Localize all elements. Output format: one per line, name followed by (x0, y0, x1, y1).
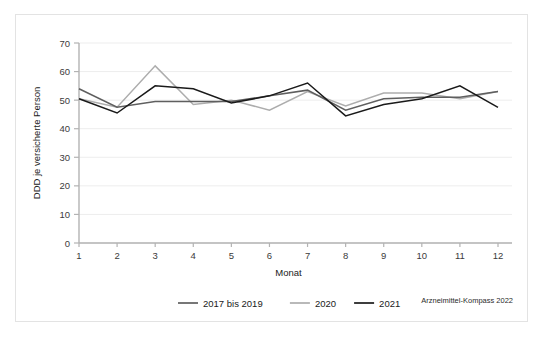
y-tick-label: 60 (59, 66, 70, 77)
y-tick-label: 40 (59, 123, 70, 134)
y-tick-label: 70 (59, 38, 70, 49)
x-tick-label: 9 (381, 250, 386, 261)
y-tick-label: 20 (59, 180, 70, 191)
x-tick-label: 2 (114, 250, 119, 261)
line-chart-svg: 010203040506070123456789101112MonatDDD j… (16, 15, 529, 323)
x-axis-title: Monat (275, 267, 302, 278)
x-tick-label: 6 (267, 250, 272, 261)
x-tick-label: 7 (305, 250, 310, 261)
x-tick-label: 8 (343, 250, 348, 261)
series-line-2017-bis-2019 (79, 89, 498, 110)
x-tick-label: 12 (493, 250, 504, 261)
chart-figure: 010203040506070123456789101112MonatDDD j… (15, 14, 528, 322)
x-tick-label: 4 (191, 250, 196, 261)
x-tick-label: 10 (417, 250, 428, 261)
x-tick-label: 3 (153, 250, 158, 261)
legend-label-2017-bis-2019: 2017 bis 2019 (203, 298, 263, 309)
x-tick-label: 5 (229, 250, 234, 261)
x-tick-label: 11 (455, 250, 465, 261)
legend-label-2021: 2021 (379, 298, 400, 309)
series-line-2021 (79, 83, 498, 116)
y-tick-label: 30 (59, 152, 70, 163)
y-tick-label: 50 (59, 95, 70, 106)
y-axis-title: DDD je versicherte Person (31, 87, 42, 199)
y-tick-label: 10 (59, 209, 70, 220)
x-tick-label: 1 (76, 250, 81, 261)
chart-plot-area: 010203040506070123456789101112MonatDDD j… (16, 15, 529, 323)
legend-label-2020: 2020 (315, 298, 336, 309)
y-tick-label: 0 (65, 238, 70, 249)
source-credit: Arzneimittel-Kompass 2022 (421, 296, 513, 305)
